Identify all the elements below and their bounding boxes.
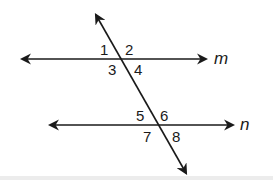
angle-8-label: 8 [172, 128, 180, 145]
angle-2-label: 2 [125, 41, 133, 58]
angle-6-label: 6 [160, 107, 168, 124]
angle-1-label: 1 [100, 41, 108, 58]
angle-5-label: 5 [136, 107, 144, 124]
line-m-label: m [214, 49, 228, 68]
angle-4-label: 4 [134, 61, 142, 78]
bottom-border [0, 176, 273, 180]
line-n-label: n [240, 115, 249, 134]
transversal-line [96, 15, 186, 173]
angle-7-label: 7 [143, 128, 151, 145]
angle-3-label: 3 [108, 61, 116, 78]
transversal-diagram: m n 1 2 3 4 5 6 7 8 [0, 0, 273, 180]
